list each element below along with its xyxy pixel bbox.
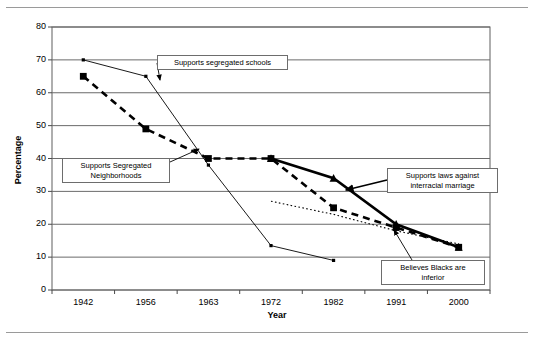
- y-tick-label-50: 50: [20, 120, 46, 130]
- y-tick-label-10: 10: [20, 251, 46, 261]
- x-tick-label-2000: 2000: [436, 297, 482, 307]
- x-axis-ticks: [52, 290, 490, 294]
- x-tick-label-1956: 1956: [123, 297, 169, 307]
- x-axis-title: Year: [242, 310, 312, 320]
- annotation-believes-blacks-are-inferior: Believes Blacks are inferior: [381, 260, 485, 285]
- series-1-point-1: [142, 126, 149, 133]
- x-tick-label-1972: 1972: [248, 297, 294, 307]
- x-tick-label-1991: 1991: [373, 297, 419, 307]
- series-0-point-0: [82, 58, 85, 61]
- series-1-point-2: [205, 155, 212, 162]
- y-tick-label-60: 60: [20, 87, 46, 97]
- series-0-point-4: [332, 259, 335, 262]
- y-tick-label-80: 80: [20, 21, 46, 31]
- x-tick-label-1942: 1942: [60, 297, 106, 307]
- series-1-point-0: [80, 73, 87, 80]
- x-tick-label-1963: 1963: [185, 297, 231, 307]
- series-1-point-4: [330, 204, 337, 211]
- y-tick-label-70: 70: [20, 54, 46, 64]
- line-chart-figure: Percentage Year 01020304050607080 194219…: [0, 10, 534, 328]
- annotation-supports-segregated-schools: Supports segregated schools: [157, 55, 288, 70]
- page-top-divider: [6, 7, 528, 8]
- series-0-point-1: [144, 75, 147, 78]
- series-0-point-2: [207, 163, 210, 166]
- chart-page: Percentage Year 01020304050607080 194219…: [0, 0, 534, 340]
- annotation-supports-laws-against-interracial-marriage: Supports laws against interracial marria…: [387, 168, 498, 193]
- y-tick-label-20: 20: [20, 218, 46, 228]
- series-0-point-3: [269, 244, 272, 247]
- page-bottom-divider: [6, 332, 528, 333]
- annotation-supports-segregated-neighborhoods: Supports Segregated Neighborhoods: [62, 158, 170, 183]
- y-axis-ticks: [48, 27, 52, 290]
- x-tick-label-1982: 1982: [311, 297, 357, 307]
- y-tick-label-40: 40: [20, 153, 46, 163]
- y-tick-label-30: 30: [20, 185, 46, 195]
- y-tick-label-0: 0: [20, 284, 46, 294]
